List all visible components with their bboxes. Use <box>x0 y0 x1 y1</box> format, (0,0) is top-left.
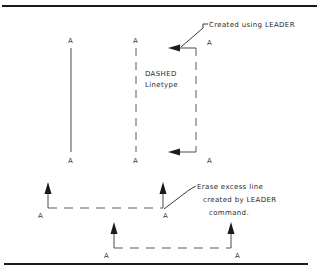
erase-callout-diagonal <box>164 190 189 209</box>
label-lower-right: A <box>235 252 240 260</box>
leader-bottom-arrowhead-icon <box>168 149 180 156</box>
leader-top-arrowhead-icon <box>168 45 180 52</box>
label-dashed-bottom: A <box>133 157 138 165</box>
label-leader-bottom: A <box>207 157 212 165</box>
label-solid-top: A <box>68 37 73 45</box>
erase-annotation-line-2: created by LEADER <box>203 196 276 204</box>
label-horiz-right: A <box>163 212 168 220</box>
erase-annotation-line-1: Erase excess line <box>197 183 263 191</box>
label-solid-bottom: A <box>68 157 73 165</box>
erase-annotation-line-3: command. <box>209 209 249 217</box>
leader-callout-diagonal <box>181 28 203 47</box>
cad-drawing-canvas: A A A A A A Created using LEADER DASHED … <box>0 0 319 270</box>
label-lower-left: A <box>104 252 109 260</box>
leader-top-annotation: Created using LEADER <box>209 21 295 29</box>
middle-right-arrowhead-icon <box>160 182 167 194</box>
lower-left-arrowhead-icon <box>111 222 118 234</box>
erase-callout-landing <box>189 186 196 190</box>
middle-left-arrowhead-icon <box>45 182 52 194</box>
linetype-name-label: DASHED <box>145 70 177 78</box>
label-leader-top: A <box>207 39 212 47</box>
drawing-sheet: A A A A A A Created using LEADER DASHED … <box>0 0 319 270</box>
label-horiz-left: A <box>38 212 43 220</box>
lower-right-arrowhead-icon <box>228 222 235 234</box>
linetype-word-label: Linetype <box>145 81 178 89</box>
label-dashed-top: A <box>133 37 138 45</box>
